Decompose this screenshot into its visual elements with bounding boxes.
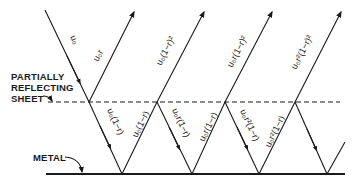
metal-label: METAL [33,152,66,163]
label-reflected-first: u₀r [91,48,105,63]
metal-pointer-arrow [65,157,82,172]
label-up-2: u₀r(1−r) [197,111,220,143]
multiple-reflection-diagram: PARTIALLY REFLECTING SHEET METAL u₀ u₀r … [0,0,354,186]
sheet-label-line3: SHEET [11,93,44,104]
label-up-1: u₀(1−r) [130,109,151,139]
sheet-label-line2: REFLECTING [11,82,74,93]
label-emerging-3: u₀r²(1−r)² [289,33,315,70]
label-transmitted-down-1: u₀(1−r) [105,107,126,137]
label-down-2: u₀r(1−r) [170,107,192,139]
label-emerging-1: u₀(1−r)² [154,35,177,67]
sheet-pointer-arrow [43,96,52,101]
sheet-label-line1: PARTIALLY [11,71,65,82]
up-ray-4 [327,142,345,174]
down-ray-4 [295,102,327,174]
label-incident: u₀ [68,33,81,45]
